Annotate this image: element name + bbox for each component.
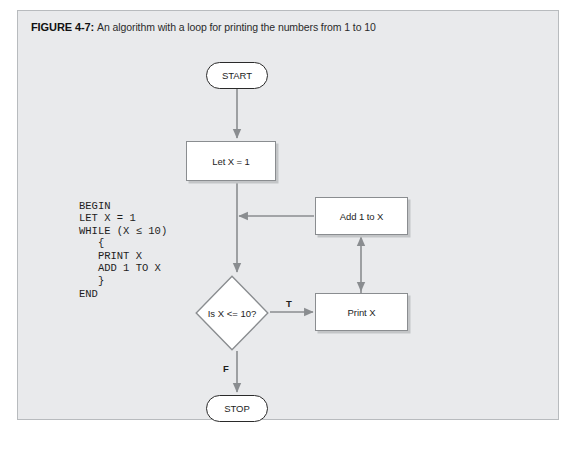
flowchart-node-start: START (206, 62, 268, 89)
node-let-x-label: Let X = 1 (212, 156, 249, 167)
figure-number-label: FIGURE 4-7: (31, 21, 94, 33)
node-stop-label: STOP (224, 403, 249, 414)
flowchart-node-stop: STOP (206, 395, 268, 422)
branch-label-true: T (286, 298, 292, 309)
flowchart-node-let-x: Let X = 1 (186, 141, 276, 181)
node-print-x-label: Print X (348, 307, 376, 318)
figure-caption: FIGURE 4-7:An algorithm with a loop for … (31, 21, 376, 33)
figure-caption-text: An algorithm with a loop for printing th… (97, 21, 376, 33)
pseudocode-block: BEGIN LET X = 1 WHILE (X ≤ 10) { PRINT X… (79, 200, 167, 301)
node-decision-label: Is X <= 10? (195, 275, 269, 351)
flowchart-node-print-x: Print X (315, 293, 408, 331)
flowchart-node-decision: Is X <= 10? (195, 275, 269, 351)
figure-panel: FIGURE 4-7:An algorithm with a loop for … (17, 10, 559, 420)
flowchart-node-add-one: Add 1 to X (315, 197, 408, 235)
node-start-label: START (222, 70, 252, 81)
node-add-one-label: Add 1 to X (340, 211, 383, 222)
branch-label-false: F (223, 363, 229, 374)
